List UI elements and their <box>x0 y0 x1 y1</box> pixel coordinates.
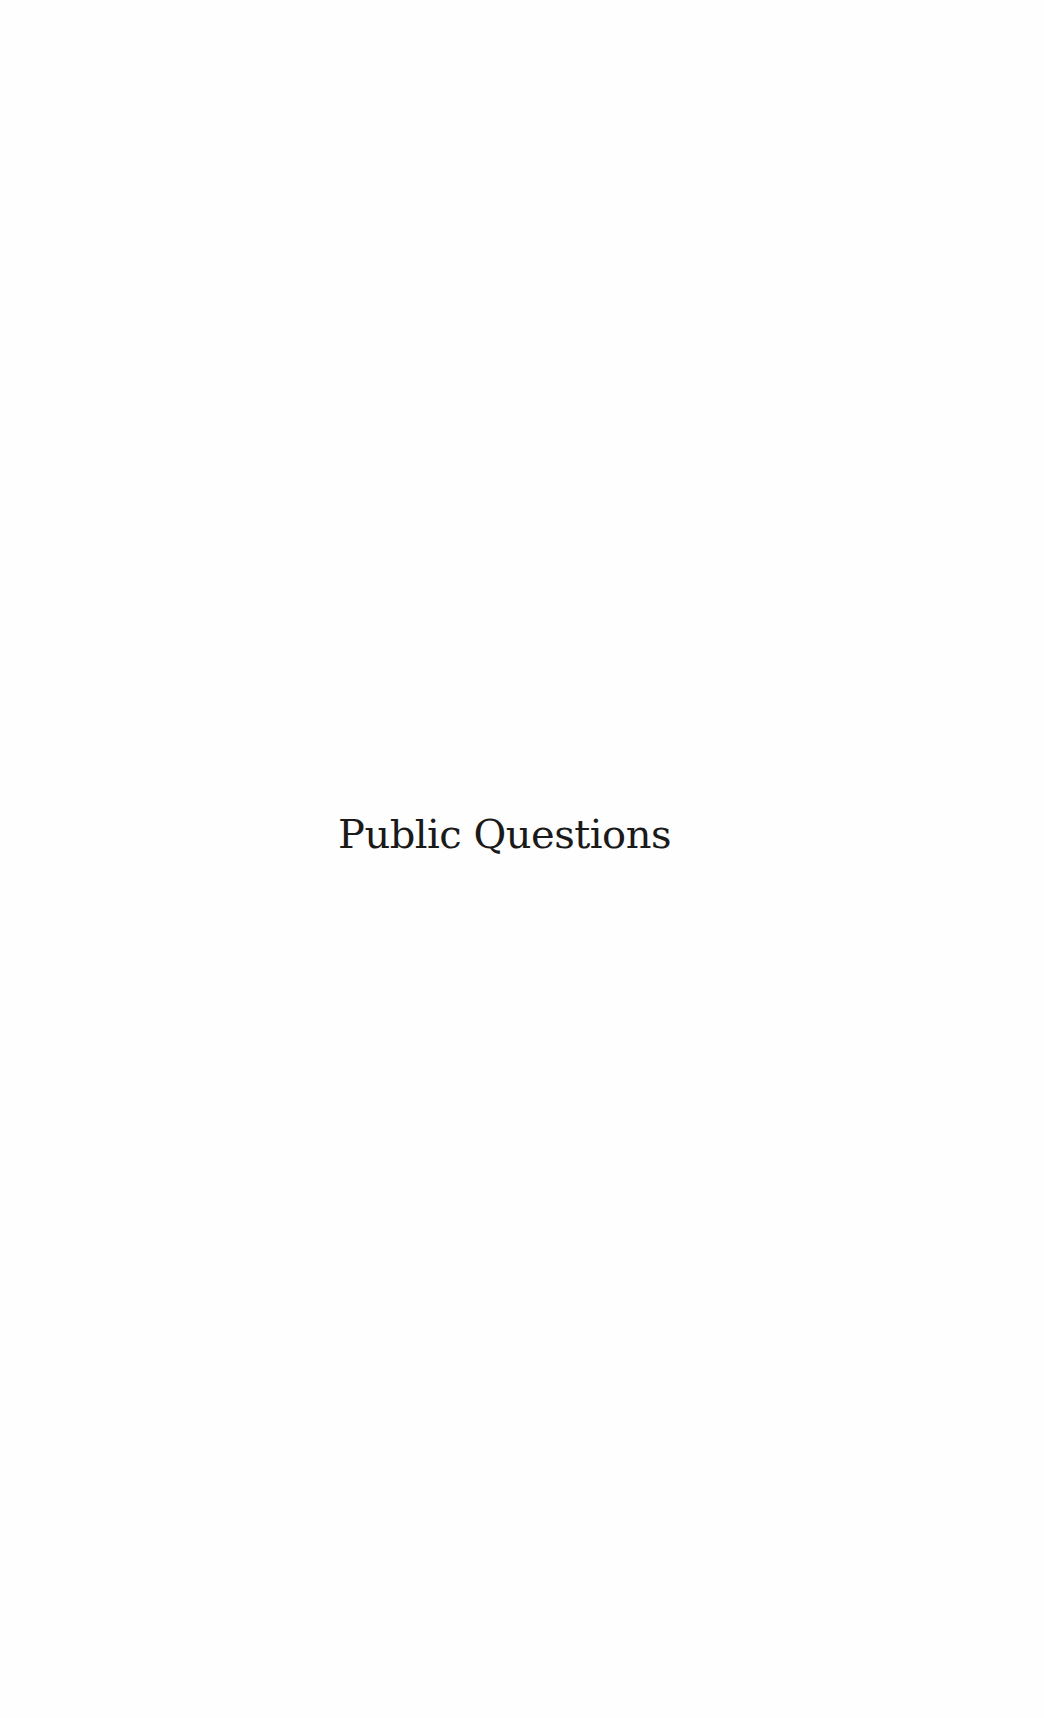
half-title: Public Questions <box>338 806 678 862</box>
book-page: Public Questions <box>0 0 1044 1718</box>
